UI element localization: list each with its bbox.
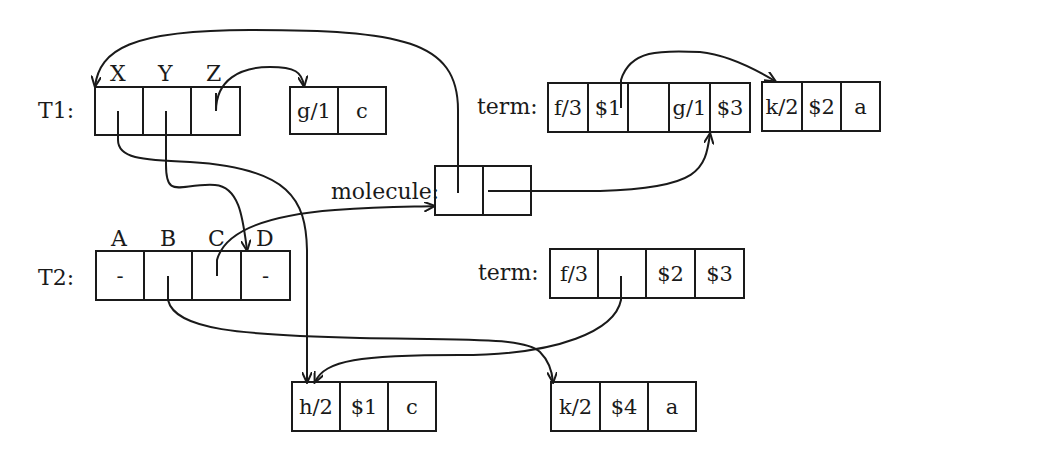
cell-pointer-stubs xyxy=(0,0,1037,466)
